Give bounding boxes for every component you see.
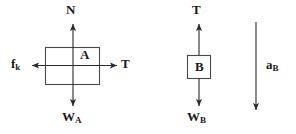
label-acceleration-b: aB <box>266 58 279 73</box>
label-weight-a-main: W <box>62 109 75 124</box>
label-tension-b: T <box>192 3 201 16</box>
label-block-b: B <box>195 60 204 73</box>
label-weight-b-main: W <box>187 109 200 124</box>
label-acceleration-subscript: B <box>273 63 279 73</box>
label-friction-subscript: k <box>15 62 20 72</box>
label-weight-b: WB <box>187 110 206 125</box>
label-normal-force: N <box>66 3 75 16</box>
label-block-a: A <box>80 48 89 61</box>
label-tension-a: T <box>121 57 130 70</box>
label-weight-a: WA <box>62 110 82 125</box>
label-kinetic-friction: fk <box>11 57 20 72</box>
label-weight-b-subscript: B <box>200 115 206 125</box>
diagram-canvas <box>0 0 296 134</box>
free-body-diagram: N WA fk T A T WB B aB <box>0 0 296 134</box>
label-weight-a-subscript: A <box>75 115 82 125</box>
